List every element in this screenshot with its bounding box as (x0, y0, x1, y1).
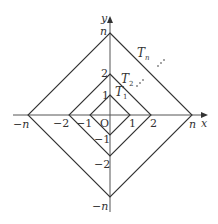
y-axis-arrow-icon (107, 16, 113, 23)
y-tick-neg-n: −n (92, 200, 108, 213)
label-t2-sub: 2 (129, 80, 133, 88)
y-axis-label: y (100, 12, 108, 25)
dots-t2-a (136, 85, 138, 87)
label-t1-sub: 1 (123, 93, 127, 101)
nested-squares-diagram: y x O −n −2 −1 1 2 n n 2 1 −1 −2 −n T1 T… (0, 0, 218, 224)
dots-t2-c (142, 79, 144, 81)
y-tick-2: 2 (101, 67, 108, 80)
dots-tn-a (157, 65, 159, 67)
x-axis-label: x (201, 117, 208, 130)
dots-tn-c (163, 59, 165, 61)
label-t2: T2 (121, 72, 133, 88)
x-tick-1: 1 (129, 117, 136, 130)
dots-t2-b (139, 82, 141, 84)
square-labels: T1 T2 Tn (115, 46, 150, 101)
label-t1: T1 (115, 85, 127, 101)
dots-tn-b (160, 62, 162, 64)
origin-label: O (100, 117, 109, 130)
y-tick-neg-2: −2 (94, 158, 110, 171)
x-tick-2: 2 (150, 117, 157, 130)
x-tick-neg-1: −1 (76, 117, 92, 130)
axes (13, 20, 205, 212)
x-tick-neg-2: −2 (53, 117, 69, 130)
y-tick-neg-1: −1 (94, 133, 110, 146)
label-tn-sub: n (145, 54, 150, 62)
x-tick-n: n (189, 118, 196, 131)
x-tick-neg-n: −n (13, 118, 29, 131)
label-tn: Tn (137, 46, 150, 62)
y-tick-1: 1 (102, 89, 109, 102)
y-tick-n: n (100, 25, 107, 38)
